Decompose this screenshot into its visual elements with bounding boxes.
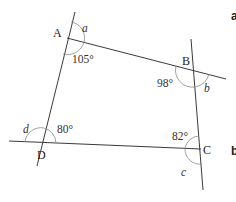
part-label-a: a xyxy=(231,9,236,23)
angle-D-80: 80° xyxy=(57,123,74,135)
line-BC xyxy=(191,39,203,190)
angle-var-c: c xyxy=(181,166,186,178)
vertex-label-A: A xyxy=(53,26,62,40)
quadrilateral-diagram: A B C D 105° 98° 82° 80° a b c d a b xyxy=(0,0,236,202)
angle-B-98: 98° xyxy=(157,77,174,89)
angle-var-a: a xyxy=(82,22,88,34)
angle-C-82: 82° xyxy=(172,130,189,142)
arc-98 xyxy=(175,66,195,87)
vertex-label-D: D xyxy=(37,148,46,162)
part-label-b: b xyxy=(231,144,236,158)
angle-var-b: b xyxy=(204,82,210,94)
angle-var-d: d xyxy=(23,123,29,135)
vertex-label-B: B xyxy=(182,54,190,68)
angle-A-105: 105° xyxy=(72,53,94,65)
vertex-label-C: C xyxy=(203,143,211,157)
